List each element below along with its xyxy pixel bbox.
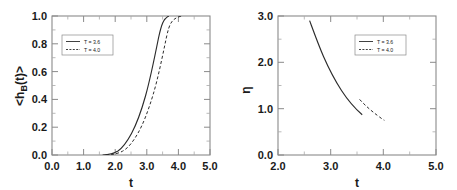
left-ytick-labels: 0.0 0.2 0.4 0.6 0.8 1.0 [32, 10, 48, 161]
left-xtick-label: 3.0 [139, 160, 154, 172]
right-xtick-label: 4.0 [376, 160, 391, 172]
left-ytick-label: 0.6 [32, 66, 47, 78]
left-ytick-label: 0.8 [32, 38, 47, 50]
right-plot-svg: 2.0 3.0 4.0 5.0 0.0 1.0 2.0 3.0 t η T = … [228, 0, 457, 190]
right-ytick-labels: 0.0 1.0 2.0 3.0 [258, 10, 273, 161]
right-legend: T = 3.6 T = 4.0 [355, 35, 406, 55]
left-yaxis-label: <hB(t)> [13, 66, 29, 106]
left-xtick-label: 1.0 [76, 160, 91, 172]
left-legend: T = 3.6 T = 4.0 [62, 35, 113, 55]
chart-panel-right: 2.0 3.0 4.0 5.0 0.0 1.0 2.0 3.0 t η T = … [228, 0, 457, 190]
figure-container: 0.0 1.0 2.0 3.0 4.0 5.0 0.0 0.2 0.4 0.6 … [0, 0, 457, 190]
right-xtick-labels: 2.0 3.0 4.0 5.0 [270, 160, 443, 172]
right-ytick-label: 2.0 [258, 56, 273, 68]
right-xtick-label: 3.0 [323, 160, 338, 172]
left-yaxis-label-tail: (t)> [13, 66, 27, 85]
left-curve-T4.0 [106, 16, 182, 155]
right-xtick-label: 5.0 [428, 160, 443, 172]
left-ytick-label: 1.0 [32, 10, 47, 22]
right-curve-T4.0 [360, 99, 385, 120]
right-ytick-label: 3.0 [258, 10, 273, 22]
left-legend-label: T = 3.6 [84, 39, 100, 45]
chart-panel-left: 0.0 1.0 2.0 3.0 4.0 5.0 0.0 0.2 0.4 0.6 … [0, 0, 228, 190]
right-xtick-label: 2.0 [270, 160, 285, 172]
left-xtick-label: 4.0 [171, 160, 186, 172]
right-curve-T3.6 [310, 21, 363, 115]
left-ytick-label: 0.4 [32, 93, 48, 105]
left-ytick-label: 0.2 [32, 121, 47, 133]
right-legend-label: T = 4.0 [377, 47, 393, 53]
left-xtick-label: 5.0 [202, 160, 217, 172]
right-yaxis-label: η [239, 86, 253, 93]
left-xtick-label: 0.0 [44, 160, 59, 172]
left-ytick-label: 0.0 [32, 149, 47, 161]
left-xtick-label: 2.0 [108, 160, 123, 172]
left-xtick-labels: 0.0 1.0 2.0 3.0 4.0 5.0 [44, 160, 217, 172]
right-legend-label: T = 3.6 [377, 39, 393, 45]
left-yaxis-label-head: <h [13, 92, 27, 106]
svg-text:<hB(t)>: <hB(t)> [13, 66, 29, 106]
left-xaxis-label: t [129, 176, 133, 190]
right-ytick-label: 0.0 [258, 149, 273, 161]
right-xaxis-label: t [355, 176, 359, 190]
left-plot-svg: 0.0 1.0 2.0 3.0 4.0 5.0 0.0 0.2 0.4 0.6 … [0, 0, 228, 190]
left-legend-label: T = 4.0 [84, 47, 100, 53]
right-ytick-label: 1.0 [258, 103, 273, 115]
